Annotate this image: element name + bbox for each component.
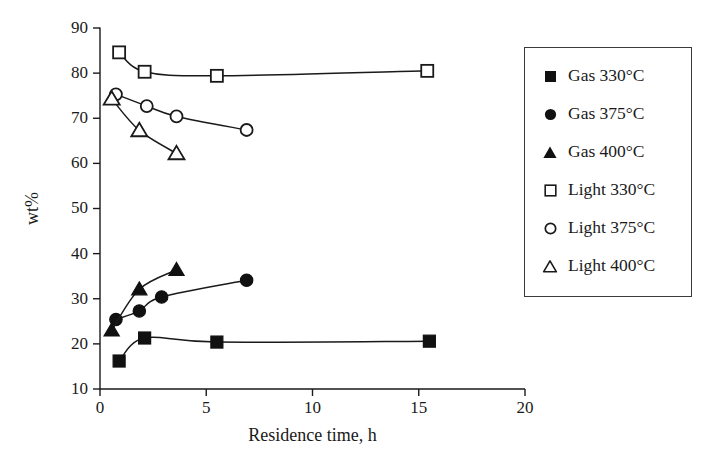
data-point-open-triangle [169,146,185,159]
open-triangle-icon [539,255,561,277]
y-tick-label: 20 [71,334,88,353]
y-tick-label: 10 [71,379,88,398]
y-tick-label: 90 [71,18,88,37]
data-point-filled-square [423,335,435,347]
filled-circle-icon [539,103,561,125]
series-light-375-c [110,88,253,136]
legend-item-gas-330: Gas 330°C [539,57,691,95]
legend-item-light-330: Light 330°C [539,171,691,209]
open-circle-icon [539,217,561,239]
legend-label: Light 400°C [568,257,655,275]
data-point-filled-circle [155,291,167,303]
filled-square-icon [539,65,561,87]
data-point-filled-triangle [132,282,147,295]
data-point-filled-circle [240,274,252,286]
y-tick-label: 30 [71,289,88,308]
legend-item-light-375: Light 375°C [539,209,691,247]
open-square-icon [539,179,561,201]
plot-area: 10203040506070809005101520Residence time… [0,0,540,470]
legend-label: Gas 400°C [568,143,645,161]
plot-canvas: 10203040506070809005101520Residence time… [0,0,540,470]
legend-label: Gas 375°C [568,105,645,123]
legend-label: Gas 330°C [568,67,645,85]
x-tick-label: 15 [410,398,427,417]
data-point-open-square [113,46,125,58]
chart-axes [100,28,525,390]
data-point-filled-square [139,332,151,344]
y-tick-label: 60 [71,153,88,172]
x-tick-label: 0 [96,398,105,417]
y-tick-label: 80 [71,63,88,82]
series-line [119,52,427,75]
chart-legend: Gas 330°C Gas 375°C Gas 400°C Light 330°… [524,47,692,297]
legend-label: Light 330°C [568,181,655,199]
x-tick-label: 5 [202,398,211,417]
data-point-open-square [139,66,151,78]
data-point-open-square [421,65,433,77]
legend-item-gas-400: Gas 400°C [539,133,691,171]
data-point-filled-circle [133,305,145,317]
series-gas-330-c [113,332,435,367]
x-axis-title: Residence time, h [248,425,376,445]
y-tick-label: 50 [71,198,88,217]
series-light-330-c [113,46,433,81]
x-tick-label: 10 [304,398,321,417]
data-point-filled-square [113,355,125,367]
series-line [119,337,429,361]
data-point-open-circle [171,110,183,122]
legend-label: Light 375°C [568,219,655,237]
chart-figure: 10203040506070809005101520Residence time… [0,0,709,470]
data-point-open-circle [241,124,253,136]
legend-item-light-400: Light 400°C [539,247,691,285]
filled-triangle-icon [539,141,561,163]
data-point-open-circle [141,100,153,112]
data-point-filled-triangle [169,262,184,275]
y-axis-title: wt% [22,192,42,225]
x-tick-label: 20 [517,398,534,417]
y-tick-label: 40 [71,244,88,263]
y-tick-label: 70 [71,108,88,127]
legend-item-gas-375: Gas 375°C [539,95,691,133]
data-point-open-square [211,70,223,82]
data-point-filled-square [211,336,223,348]
